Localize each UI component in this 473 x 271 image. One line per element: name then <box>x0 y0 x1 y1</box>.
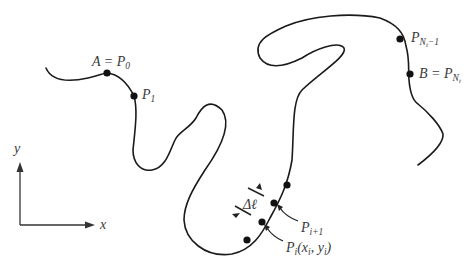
label-p1: P1 <box>141 87 155 104</box>
point-b-pn <box>406 70 413 77</box>
x-axis-label: x <box>99 217 107 232</box>
point-p1 <box>130 92 137 99</box>
delta-l-arrow-lower-icon <box>232 213 240 218</box>
leader-p-i-plus-1 <box>280 208 298 221</box>
label-b-pn: B = PNt <box>419 66 462 85</box>
delta-l-arrow-upper-icon <box>256 183 262 190</box>
y-axis-arrowhead-icon <box>17 162 24 172</box>
leader-p-i <box>267 228 283 241</box>
label-p-i: Pi(xi, yi) <box>285 240 332 257</box>
label-pn-minus-1: PNt−1 <box>410 30 439 49</box>
curve-diagram: y x A = P0 P1 PNt−1 B = PNt Δℓ Pi+1 Pi(x… <box>0 0 473 271</box>
x-axis-arrowhead-icon <box>85 222 95 229</box>
point-pn-minus-1 <box>396 35 403 42</box>
point-p-i-plus-1 <box>270 199 277 206</box>
point-p-i-plus-2 <box>283 181 290 188</box>
point-a-p0 <box>103 69 110 76</box>
label-p-i-plus-1: Pi+1 <box>300 220 323 237</box>
label-a-p0: A = P0 <box>91 54 130 71</box>
y-axis-label: y <box>12 141 21 156</box>
point-p-i-minus-1 <box>243 236 250 243</box>
label-delta-l: Δℓ <box>242 197 257 212</box>
